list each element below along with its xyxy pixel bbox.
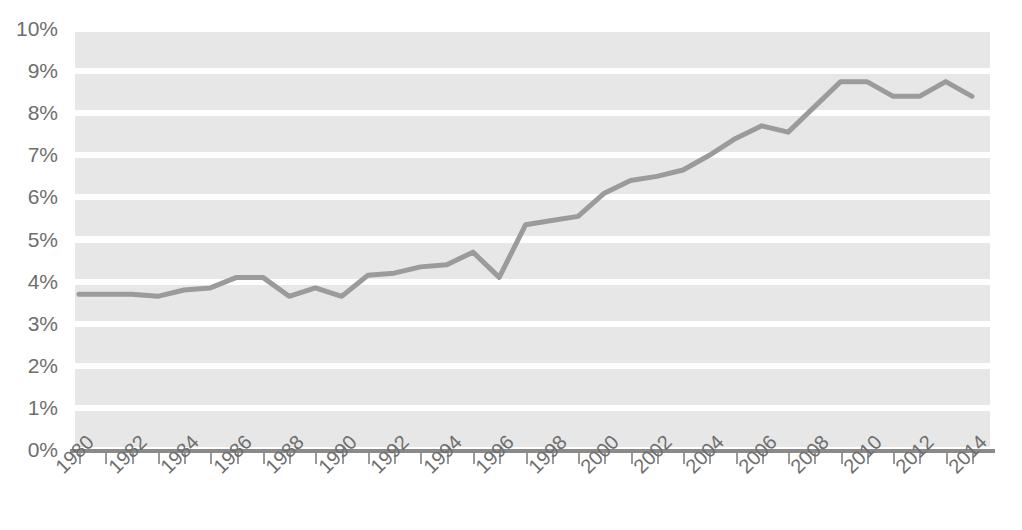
y-tick-label: 8% [28,101,58,125]
y-tick-label: 7% [28,143,58,167]
x-axis: 1980198219841986198819901992199419961998… [0,462,1022,530]
y-tick-label: 6% [28,185,58,209]
line-chart: 10%9%8%7%6%5%4%3%2%1%0% 1980198219841986… [0,0,1022,530]
y-tick-label: 9% [28,59,58,83]
y-tick-label: 5% [28,228,58,252]
y-tick-label: 2% [28,354,58,378]
series-line [75,29,990,450]
y-tick-label: 3% [28,312,58,336]
plot-area [75,29,990,450]
y-tick-label: 4% [28,270,58,294]
series-polyline [79,82,972,297]
y-tick-label: 1% [28,396,58,420]
y-tick-label: 10% [16,17,58,41]
y-axis: 10%9%8%7%6%5%4%3%2%1%0% [0,0,66,530]
